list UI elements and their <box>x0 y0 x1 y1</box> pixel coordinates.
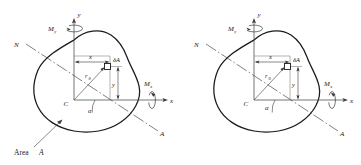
angle-label-left: α <box>88 107 92 114</box>
angle-arc-right <box>272 100 275 113</box>
area-leader-arrowhead-left <box>57 120 63 125</box>
panel-right: y x C N A M y M x x y δA r 0 α <box>193 11 354 139</box>
element-area-square-right <box>285 64 291 70</box>
x-axis-label-left: x <box>169 97 174 105</box>
angle-label-right: α <box>265 104 269 111</box>
cross-section-outline-left <box>34 31 140 132</box>
diagram-canvas: y x C N A M y M x x y <box>0 0 361 165</box>
element-area-square-left <box>105 64 111 70</box>
radius-label-right: r <box>265 72 268 79</box>
neutral-axis-start-label-right: N <box>193 41 199 49</box>
area-leader-line-left <box>34 121 61 147</box>
y-coordinate-label-right: y <box>291 81 295 88</box>
radius-line-right <box>254 68 284 100</box>
x-axis-label-right: x <box>349 97 354 105</box>
y-axis-label-left: y <box>77 11 82 19</box>
element-area-label-right: δA <box>293 56 300 63</box>
element-area-label-left: δA <box>113 56 120 63</box>
radius-line-left <box>74 68 104 100</box>
centroid-label-right: C <box>244 100 249 108</box>
radius-subscript-right: 0 <box>269 76 272 81</box>
y-coordinate-label-left: y <box>111 81 115 88</box>
x-coordinate-label-right: x <box>268 53 272 60</box>
moment-y-subscript-right: y <box>233 29 236 34</box>
neutral-axis-start-label-left: N <box>13 41 19 49</box>
moment-y-arrowhead-right <box>247 28 251 31</box>
centroid-label-left: C <box>64 100 69 108</box>
y-axis-label-right: y <box>257 11 262 19</box>
area-label-left: Area <box>14 148 29 157</box>
neutral-axis-end-label-left: A <box>159 130 165 138</box>
cross-section-outline-right <box>214 31 320 132</box>
radius-subscript-left: 0 <box>89 76 92 81</box>
x-coordinate-label-left: x <box>88 53 92 60</box>
panel-left: y x C N A M y M x x y <box>13 11 174 158</box>
moment-y-subscript-left: y <box>53 29 56 34</box>
moment-x-subscript-left: x <box>149 84 152 89</box>
neutral-axis-end-label-right: A <box>339 130 345 138</box>
area-label-italic-left: A <box>38 148 44 157</box>
moment-y-arrowhead-left <box>67 28 71 31</box>
moment-x-subscript-right: x <box>329 84 332 89</box>
angle-arc-left <box>92 100 95 113</box>
radius-label-left: r <box>85 72 88 79</box>
